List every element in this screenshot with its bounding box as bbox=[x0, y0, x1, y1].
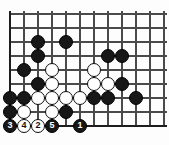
go-board-diagram: 12345 bbox=[0, 0, 169, 145]
